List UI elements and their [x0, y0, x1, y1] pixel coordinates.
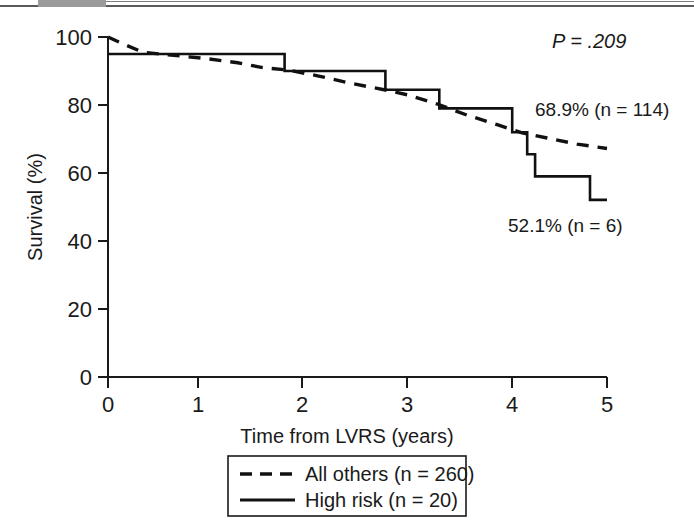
- x-tick-label-3: 3: [401, 392, 413, 417]
- x-axis-title: Time from LVRS (years): [240, 425, 453, 447]
- p-value-annotation: P = .209: [552, 30, 626, 52]
- survival-chart: 100 80 60 40 20 0 0 1 2 3 4 5 Time from …: [0, 0, 694, 526]
- legend-item-all-others: All others (n = 260): [305, 463, 475, 485]
- y-tick-label-20: 20: [68, 297, 92, 322]
- legend-item-high-risk: High risk (n = 20): [305, 489, 458, 511]
- y-tick-label-40: 40: [68, 229, 92, 254]
- all-others-endpoint-annotation: 68.9% (n = 114): [535, 99, 669, 120]
- y-axis-title: Survival (%): [24, 153, 46, 261]
- high-risk-endpoint-annotation: 52.1% (n = 6): [508, 215, 623, 236]
- y-tick-label-80: 80: [68, 93, 92, 118]
- legend: All others (n = 260) High risk (n = 20): [228, 456, 475, 516]
- y-tick-label-100: 100: [55, 25, 92, 50]
- x-tick-label-5: 5: [601, 392, 613, 417]
- x-tick-label-1: 1: [192, 392, 204, 417]
- x-tick-label-2: 2: [296, 392, 308, 417]
- figure-panel: 100 80 60 40 20 0 0 1 2 3 4 5 Time from …: [0, 0, 694, 526]
- y-axis-ticks: [98, 37, 108, 377]
- y-tick-label-0: 0: [80, 365, 92, 390]
- x-axis-ticks: [108, 377, 607, 388]
- series-line-high-risk: [108, 54, 607, 200]
- x-tick-label-0: 0: [102, 392, 114, 417]
- y-tick-label-60: 60: [68, 161, 92, 186]
- x-tick-label-4: 4: [506, 392, 518, 417]
